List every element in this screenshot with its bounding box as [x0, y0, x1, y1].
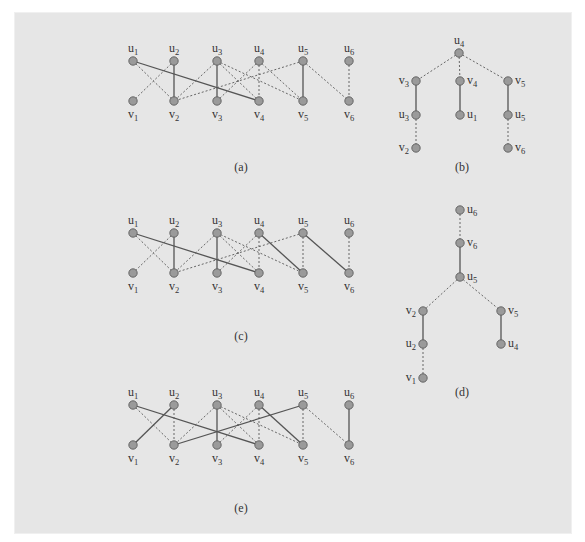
- node-label-a-v6: v6: [344, 107, 354, 123]
- node-b-u1: [456, 111, 464, 119]
- node-label-e-v5: v5: [298, 451, 308, 467]
- node-label-c-u1: u1: [128, 213, 138, 229]
- caption-c: (c): [234, 329, 247, 343]
- caption-a: (a): [234, 160, 247, 174]
- node-label-a-u2: u2: [169, 41, 179, 57]
- node-e-v6: [345, 441, 353, 449]
- node-label-a-u6: u6: [344, 41, 354, 57]
- node-e-u5: [299, 401, 307, 409]
- node-label-c-v6: v6: [344, 279, 354, 295]
- edge-b-u4-v3: [416, 53, 459, 81]
- node-label-b-u5: u5: [515, 107, 525, 123]
- edge-d-u5-v2: [423, 277, 460, 311]
- node-label-c-v2: v2: [169, 279, 179, 295]
- node-label-c-v5: v5: [298, 279, 308, 295]
- node-c-u3: [213, 229, 221, 237]
- edge-c-u4-v5: [259, 233, 303, 273]
- node-b-u5: [504, 111, 512, 119]
- node-label-b-v4: v4: [467, 73, 478, 89]
- node-d-u4: [497, 340, 505, 348]
- node-label-e-v4: v4: [254, 451, 265, 467]
- node-label-b-u4: u4: [454, 33, 465, 49]
- edge-e-u4-v5: [259, 405, 303, 445]
- node-d-u2: [419, 340, 427, 348]
- node-b-u3: [412, 111, 420, 119]
- edge-c-u3-v5: [217, 233, 303, 273]
- node-label-c-v3: v3: [212, 279, 222, 295]
- edge-a-u1-v4: [133, 61, 259, 101]
- node-label-e-u6: u6: [344, 385, 354, 401]
- node-e-u2: [170, 401, 178, 409]
- node-label-b-u1: u1: [467, 107, 477, 123]
- node-b-v2: [412, 144, 420, 152]
- node-b-v6: [504, 144, 512, 152]
- caption-e: (e): [234, 501, 247, 515]
- node-c-v2: [170, 269, 178, 277]
- node-label-b-v3: v3: [399, 73, 409, 89]
- node-label-a-v2: v2: [169, 107, 179, 123]
- node-d-v2: [419, 307, 427, 315]
- node-label-b-v6: v6: [515, 140, 525, 156]
- node-label-a-v4: v4: [254, 107, 265, 123]
- node-label-e-v6: v6: [344, 451, 354, 467]
- node-label-d-v6: v6: [467, 235, 477, 251]
- caption-d: (d): [455, 385, 469, 399]
- node-label-a-u4: u4: [254, 41, 265, 57]
- node-c-u5: [299, 229, 307, 237]
- edges-layer: [133, 53, 508, 445]
- node-label-d-v1: v1: [406, 370, 416, 386]
- edge-e-u5-v6: [303, 405, 349, 445]
- graph-figure: u1u2u3u4u5u6v1v2v3v4v5v6(a)u4v3v4v5u3u1u…: [0, 0, 585, 542]
- node-label-c-u6: u6: [344, 213, 354, 229]
- node-e-u6: [345, 401, 353, 409]
- node-a-u6: [345, 57, 353, 65]
- node-a-u5: [299, 57, 307, 65]
- node-label-e-u1: u1: [128, 385, 138, 401]
- node-c-v3: [213, 269, 221, 277]
- node-c-u2: [170, 229, 178, 237]
- node-label-a-v3: v3: [212, 107, 222, 123]
- node-a-u1: [129, 57, 137, 65]
- node-a-v2: [170, 97, 178, 105]
- node-label-a-u3: u3: [212, 41, 222, 57]
- node-c-v1: [129, 269, 137, 277]
- node-e-v3: [213, 441, 221, 449]
- node-b-v3: [412, 77, 420, 85]
- node-label-d-v2: v2: [406, 303, 416, 319]
- node-label-d-u5: u5: [467, 269, 477, 285]
- node-b-v4: [456, 77, 464, 85]
- caption-b: (b): [455, 160, 469, 174]
- edge-a-u5-v6: [303, 61, 349, 101]
- node-c-v6: [345, 269, 353, 277]
- node-e-u3: [213, 401, 221, 409]
- node-d-v1: [419, 374, 427, 382]
- node-e-v5: [299, 441, 307, 449]
- node-e-v2: [170, 441, 178, 449]
- node-d-u6: [456, 206, 464, 214]
- labels-layer: u1u2u3u4u5u6v1v2v3v4v5v6(a)u4v3v4v5u3u1u…: [128, 33, 525, 515]
- node-a-v1: [129, 97, 137, 105]
- node-d-u5: [456, 273, 464, 281]
- node-c-v4: [255, 269, 263, 277]
- node-e-u1: [129, 401, 137, 409]
- node-label-e-u2: u2: [169, 385, 179, 401]
- node-d-v6: [456, 239, 464, 247]
- node-e-u4: [255, 401, 263, 409]
- node-label-e-u5: u5: [298, 385, 308, 401]
- node-label-e-v1: v1: [128, 451, 138, 467]
- node-c-v5: [299, 269, 307, 277]
- node-a-u4: [255, 57, 263, 65]
- node-label-b-v2: v2: [399, 140, 409, 156]
- node-e-v1: [129, 441, 137, 449]
- node-label-a-u5: u5: [298, 41, 308, 57]
- node-label-a-v5: v5: [298, 107, 308, 123]
- node-b-v5: [504, 77, 512, 85]
- node-a-v4: [255, 97, 263, 105]
- node-label-c-u2: u2: [169, 213, 179, 229]
- node-c-u4: [255, 229, 263, 237]
- node-label-e-v3: v3: [212, 451, 222, 467]
- node-a-v6: [345, 97, 353, 105]
- node-c-u6: [345, 229, 353, 237]
- node-label-c-u5: u5: [298, 213, 308, 229]
- node-label-a-v1: v1: [128, 107, 138, 123]
